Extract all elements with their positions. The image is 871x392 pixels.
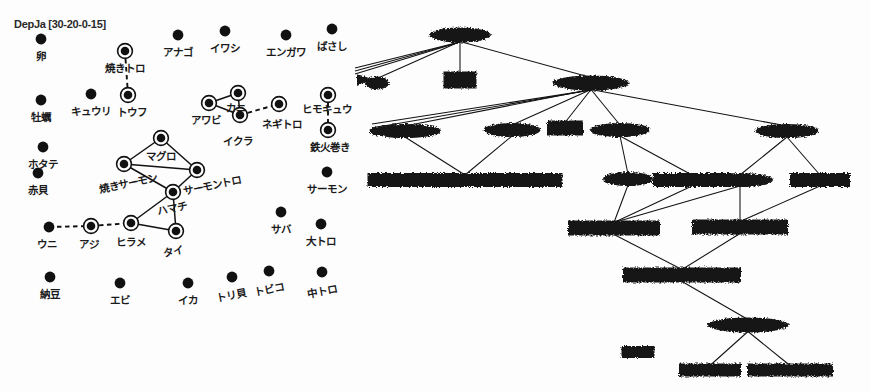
- graph-node[interactable]: [276, 207, 287, 218]
- graph-node[interactable]: [154, 131, 169, 146]
- graph-node-core: [324, 91, 333, 100]
- tree-node[interactable]: [707, 318, 789, 333]
- tree-node-bar: [790, 173, 850, 187]
- graph-node-label-aji: アジ: [79, 236, 99, 251]
- tree-node[interactable]: [747, 364, 833, 377]
- tree-node[interactable]: [547, 121, 583, 136]
- graph-node[interactable]: [173, 30, 184, 41]
- graph-node[interactable]: [220, 26, 231, 37]
- tree-node[interactable]: [623, 268, 741, 283]
- graph-node[interactable]: [183, 278, 194, 289]
- tree-node[interactable]: [553, 76, 630, 91]
- tree-node-blob: [590, 123, 650, 137]
- tree-node[interactable]: [429, 28, 491, 43]
- tree-node-blob: [755, 124, 819, 138]
- tree-edge: [620, 136, 692, 175]
- tree-node-blob: [484, 123, 541, 137]
- graph-node-dot: [327, 24, 338, 35]
- graph-node-core: [205, 99, 214, 108]
- graph-node[interactable]: [166, 185, 181, 200]
- graph-node[interactable]: [202, 96, 217, 111]
- tree-node[interactable]: [444, 72, 477, 89]
- graph-node-label-ootoro: 大トロ: [306, 233, 335, 248]
- graph-node-core: [275, 100, 284, 109]
- tree-node[interactable]: [622, 346, 655, 358]
- graph-node[interactable]: [321, 123, 336, 138]
- graph-node-dot: [264, 266, 275, 277]
- graph-node[interactable]: [86, 89, 97, 100]
- tree-node-box: [622, 346, 655, 358]
- graph-node[interactable]: [118, 44, 133, 59]
- tree-node[interactable]: [568, 221, 660, 236]
- graph-node-label-kyuuri: キュウリ: [71, 103, 110, 118]
- tree-node[interactable]: [603, 172, 653, 186]
- graph-node-dot: [183, 278, 194, 289]
- graph-node-label-kaki: 牡蠣: [31, 109, 51, 124]
- graph-node-dot: [220, 26, 231, 37]
- graph-edge-solid: [124, 164, 197, 170]
- tree-edge: [465, 136, 512, 175]
- figure-vector-layer: [0, 0, 871, 392]
- graph-node-dot: [86, 89, 97, 100]
- graph-node[interactable]: [327, 24, 338, 35]
- tree-node[interactable]: [707, 173, 773, 187]
- graph-node-label-hirame: ヒラメ: [116, 234, 145, 249]
- tree-node[interactable]: [368, 173, 563, 187]
- graph-node[interactable]: [316, 219, 327, 230]
- tree-edge: [682, 282, 748, 320]
- graph-node-dot: [36, 95, 47, 106]
- graph-node-label-iwashi: イワシ: [210, 40, 239, 55]
- graph-node-core: [157, 134, 166, 143]
- graph-node[interactable]: [121, 88, 136, 103]
- graph-node-label-negitoro: ネギトロ: [262, 116, 301, 131]
- graph-node[interactable]: [190, 163, 205, 178]
- graph-node[interactable]: [115, 278, 126, 289]
- graph-node-dot: [173, 30, 184, 41]
- graph-node[interactable]: [272, 97, 287, 112]
- tree-node[interactable]: [692, 220, 788, 235]
- graph-node-label-tamago: 卵: [36, 48, 46, 63]
- tree-node[interactable]: [484, 123, 541, 137]
- graph-node[interactable]: [322, 167, 333, 178]
- tree-node[interactable]: [369, 124, 441, 138]
- graph-node[interactable]: [169, 224, 184, 239]
- tree-edge: [614, 186, 740, 223]
- graph-node-core: [234, 89, 243, 98]
- graph-node[interactable]: [44, 222, 55, 233]
- graph-node[interactable]: [117, 157, 132, 172]
- graph-node[interactable]: [38, 142, 49, 153]
- graph-node[interactable]: [84, 219, 99, 234]
- graph-node-label-ebi: エビ: [110, 292, 130, 307]
- graph-node-core: [193, 166, 202, 175]
- graph-node-core: [324, 126, 333, 135]
- graph-node[interactable]: [281, 30, 292, 41]
- tree-edge: [740, 137, 787, 175]
- graph-node-dot: [44, 222, 55, 233]
- graph-node[interactable]: [45, 272, 56, 283]
- graph-node[interactable]: [124, 216, 139, 231]
- graph-node[interactable]: [227, 272, 238, 283]
- graph-node-label-hotate: ホタテ: [28, 156, 57, 171]
- graph-node[interactable]: [36, 95, 47, 106]
- tree-edge: [460, 42, 591, 78]
- tree-node[interactable]: [679, 364, 741, 377]
- graph-node-core: [127, 219, 136, 228]
- tree-edge: [740, 186, 820, 222]
- graph-node-dot: [317, 267, 328, 278]
- tree-edge: [620, 136, 628, 174]
- graph-node-dot: [115, 278, 126, 289]
- tree-node[interactable]: [755, 124, 819, 138]
- graph-node-dot: [322, 167, 333, 178]
- tree-node[interactable]: [590, 123, 650, 137]
- graph-node[interactable]: [36, 34, 47, 45]
- graph-node-label-himokyuu: ヒモキュウ: [302, 101, 351, 116]
- graph-node-label-ika: イカ: [178, 292, 198, 307]
- graph-node[interactable]: [264, 266, 275, 277]
- graph-node[interactable]: [317, 267, 328, 278]
- graph-node-label-anago: アナゴ: [163, 44, 192, 59]
- tree-node[interactable]: [790, 173, 850, 187]
- graph-node-label-ikura: イクラ: [223, 133, 252, 148]
- tree-edge: [405, 137, 465, 175]
- graph-node[interactable]: [231, 86, 246, 101]
- tree-edge: [591, 90, 620, 126]
